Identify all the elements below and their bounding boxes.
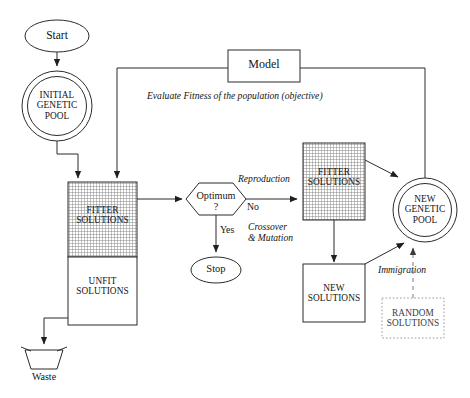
new-pool-outer-circle bbox=[393, 178, 457, 242]
waste-shape bbox=[25, 350, 63, 369]
flowchart-diagram: Start INITIAL GENETIC POOL FITTER SOLUTI… bbox=[0, 0, 470, 398]
new-pool-inner-circle bbox=[399, 184, 452, 237]
model-shape bbox=[228, 50, 300, 82]
edge-new-solutions-to-new-pool bbox=[365, 243, 404, 264]
initial-pool-outer-circle bbox=[22, 71, 92, 141]
diagram-canvas bbox=[0, 0, 470, 398]
stop-node-shape bbox=[191, 257, 241, 283]
new-solutions-shape bbox=[303, 264, 365, 322]
initial-pool-inner-circle bbox=[28, 77, 87, 136]
fitter-left-shape bbox=[68, 182, 137, 257]
unfit-left-shape bbox=[68, 257, 137, 325]
edge-initial-pool-to-fitter-left bbox=[57, 141, 78, 178]
optimum-shape bbox=[186, 183, 246, 215]
edge-unfit-to-waste bbox=[44, 318, 68, 344]
edge-fitter-right-to-new-pool bbox=[365, 160, 398, 177]
fitter-right-shape bbox=[303, 143, 365, 220]
edge-model-to-fitter-left bbox=[117, 68, 228, 178]
random-solutions-shape bbox=[382, 298, 444, 338]
start-node-shape bbox=[25, 20, 89, 52]
